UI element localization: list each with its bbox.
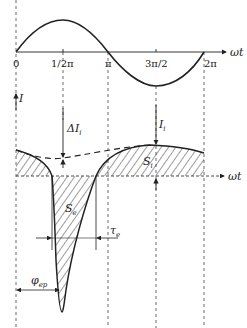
sine-wave: [16, 20, 204, 86]
tau-e-label: τe: [110, 224, 120, 239]
tick-0: 0: [13, 58, 19, 69]
bottom-axis-label: ωt: [228, 170, 242, 183]
tick-3pi-2: 3π/2: [145, 58, 168, 69]
delta-i-label: ΔIi: [66, 122, 82, 137]
phi-ep-label: φep: [31, 274, 48, 289]
i-i-label: Ii: [158, 118, 166, 133]
tick-pi: π: [105, 58, 112, 69]
waveform-diagram: ωt 0 1/2π π 3π/2 2π I ωt ΔIi Ii Si Se τe…: [0, 0, 247, 328]
tick-2pi: 2π: [204, 58, 217, 69]
tick-half-pi: 1/2π: [51, 58, 74, 69]
top-axis-label: ωt: [230, 46, 244, 59]
current-axis-label: I: [18, 92, 24, 105]
